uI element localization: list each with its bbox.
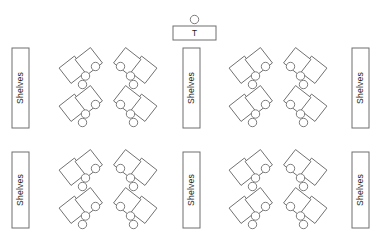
student-chair[interactable]: [261, 202, 269, 210]
shelf-unit: Shelves: [12, 152, 29, 228]
desk-pair-unit[interactable]: [229, 48, 272, 89]
student-chair[interactable]: [126, 174, 134, 182]
student-chair[interactable]: [296, 212, 304, 220]
teacher-chair[interactable]: [190, 15, 198, 23]
cluster-r2-c2[interactable]: [114, 150, 157, 229]
student-chair[interactable]: [129, 220, 137, 228]
student-chair[interactable]: [299, 118, 307, 126]
student-chair[interactable]: [91, 164, 99, 172]
student-chair[interactable]: [81, 174, 89, 182]
teacher-desk-label: T: [192, 29, 197, 38]
desk-pair-unit[interactable]: [114, 188, 157, 229]
teacher-station[interactable]: T: [173, 15, 216, 40]
student-chair[interactable]: [296, 72, 304, 80]
student-chair[interactable]: [286, 100, 294, 108]
student-chair[interactable]: [81, 212, 89, 220]
desk-pair-unit[interactable]: [284, 86, 327, 127]
shelf-unit: Shelves: [352, 48, 369, 128]
desk-pair-unit[interactable]: [114, 150, 157, 191]
student-chair[interactable]: [129, 118, 137, 126]
student-chair[interactable]: [126, 110, 134, 118]
desk-pair-unit[interactable]: [114, 48, 157, 89]
desk-pair-unit[interactable]: [284, 150, 327, 191]
student-chair[interactable]: [251, 212, 259, 220]
desk-pair-unit[interactable]: [229, 86, 272, 127]
cluster-r2-c3[interactable]: [229, 150, 272, 229]
student-chair[interactable]: [126, 72, 134, 80]
shelf-unit: Shelves: [183, 152, 200, 228]
student-chair[interactable]: [299, 220, 307, 228]
student-chair[interactable]: [286, 62, 294, 70]
shelf-label: Shelves: [186, 174, 196, 206]
student-chair[interactable]: [116, 62, 124, 70]
shelf-label: Shelves: [15, 174, 25, 206]
desk-pair-unit[interactable]: [59, 86, 102, 127]
desk-pair-unit[interactable]: [284, 48, 327, 89]
student-chair[interactable]: [248, 220, 256, 228]
floorplan-canvas: T ShelvesShelvesShelvesShelvesShelvesShe…: [0, 0, 390, 235]
student-chair[interactable]: [91, 202, 99, 210]
student-chair[interactable]: [78, 80, 86, 88]
shelf-unit: Shelves: [352, 152, 369, 228]
desk-pair-unit[interactable]: [59, 150, 102, 191]
classroom-floorplan: T ShelvesShelvesShelvesShelvesShelvesShe…: [0, 0, 390, 235]
cluster-r1-c2[interactable]: [114, 48, 157, 127]
student-chair[interactable]: [251, 110, 259, 118]
student-chair[interactable]: [78, 220, 86, 228]
cluster-r1-c1[interactable]: [59, 48, 102, 127]
student-chair[interactable]: [126, 212, 134, 220]
cluster-r2-c1[interactable]: [59, 150, 102, 229]
cluster-r1-c3[interactable]: [229, 48, 272, 127]
desk-pair-unit[interactable]: [229, 150, 272, 191]
student-chair[interactable]: [286, 164, 294, 172]
shelf-label: Shelves: [186, 72, 196, 104]
cluster-r2-c4[interactable]: [284, 150, 327, 229]
student-chair[interactable]: [116, 100, 124, 108]
shelf-label: Shelves: [355, 72, 365, 104]
student-chair[interactable]: [261, 164, 269, 172]
student-chair[interactable]: [248, 118, 256, 126]
student-chair[interactable]: [248, 182, 256, 190]
student-chair[interactable]: [296, 110, 304, 118]
desk-pair-unit[interactable]: [59, 188, 102, 229]
shelf-unit: Shelves: [12, 48, 29, 128]
student-chair[interactable]: [116, 202, 124, 210]
student-chair[interactable]: [286, 202, 294, 210]
desk-pair-unit[interactable]: [59, 48, 102, 89]
student-chair[interactable]: [129, 80, 137, 88]
student-chair[interactable]: [91, 62, 99, 70]
student-chair[interactable]: [81, 72, 89, 80]
shelf-unit: Shelves: [183, 48, 200, 128]
desk-pair-unit[interactable]: [284, 188, 327, 229]
student-chair[interactable]: [78, 182, 86, 190]
cluster-r1-c4[interactable]: [284, 48, 327, 127]
student-chair[interactable]: [78, 118, 86, 126]
student-chair[interactable]: [299, 80, 307, 88]
student-chair[interactable]: [91, 100, 99, 108]
student-chair[interactable]: [299, 182, 307, 190]
student-chair[interactable]: [296, 174, 304, 182]
desk-pair-unit[interactable]: [114, 86, 157, 127]
shelf-label: Shelves: [355, 174, 365, 206]
desk-pair-unit[interactable]: [229, 188, 272, 229]
student-chair[interactable]: [261, 62, 269, 70]
student-chair[interactable]: [251, 174, 259, 182]
student-chair[interactable]: [81, 110, 89, 118]
student-chair[interactable]: [116, 164, 124, 172]
shelf-label: Shelves: [15, 72, 25, 104]
student-chair[interactable]: [251, 72, 259, 80]
student-chair[interactable]: [261, 100, 269, 108]
student-chair[interactable]: [248, 80, 256, 88]
student-chair[interactable]: [129, 182, 137, 190]
